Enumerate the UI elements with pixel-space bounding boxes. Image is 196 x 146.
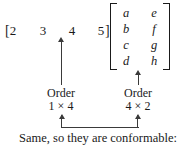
matrix-cell: f xyxy=(148,21,160,37)
row-vector-entry-1: 2 xyxy=(8,23,18,39)
matrix-row: a e xyxy=(117,5,163,21)
dimension-match-connector-icon xyxy=(58,114,142,128)
connector-bar xyxy=(61,127,139,128)
arrow-shaft xyxy=(61,41,62,85)
matrix-left-bracket xyxy=(110,3,117,70)
matrix-cell: g xyxy=(148,37,160,53)
row-vector-close-bracket: ] xyxy=(105,23,110,39)
order-dimensions: 4 × 2 xyxy=(105,100,171,113)
matrix-row: c g xyxy=(117,37,163,53)
matrix-right-bracket xyxy=(163,3,170,70)
matrix-conformability-figure: [ 2 3 4 5 ] a e b f c g d h xyxy=(0,0,196,146)
arrow-head-icon xyxy=(59,114,65,119)
matrix-cell: b xyxy=(120,21,132,37)
matrix-cell: h xyxy=(148,53,160,69)
matrix-row: b f xyxy=(117,21,163,37)
order-label-right: Order 4 × 2 xyxy=(105,87,171,113)
arrow-head-icon xyxy=(135,114,141,119)
caption-text: Same, so they are conformable: xyxy=(0,131,196,145)
row-vector-entry-2: 3 xyxy=(38,23,48,39)
matrix-4x2: a e b f c g d h xyxy=(110,3,170,70)
order-label-left: Order 1 × 4 xyxy=(28,87,94,113)
arrow-shaft xyxy=(138,74,139,85)
row-vector-entry-3: 4 xyxy=(67,23,77,39)
matrix-cell: d xyxy=(120,53,132,69)
matrix-cells: a e b f c g d h xyxy=(117,4,163,69)
matrix-row: d h xyxy=(117,53,163,69)
matrix-cell: e xyxy=(148,5,160,21)
matrix-cell: a xyxy=(120,5,132,21)
order-dimensions: 1 × 4 xyxy=(28,100,94,113)
matrix-cell: c xyxy=(120,37,132,53)
